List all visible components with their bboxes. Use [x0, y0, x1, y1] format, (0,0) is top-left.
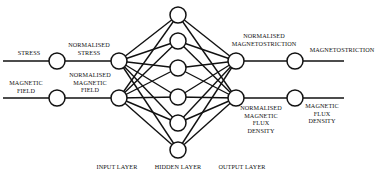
magnetic-flux-density-label: MAGNETIC FLUX DENSITY: [300, 102, 344, 125]
output-node: [228, 53, 244, 69]
magnetic-field-label: MAGNETIC FIELD: [6, 79, 46, 94]
hidden-node: [170, 33, 186, 49]
network-graph: [0, 0, 381, 180]
hidden-node: [170, 60, 186, 76]
normalised-magnetic-field-label: NORMALISED MAGNETIC FIELD: [64, 71, 116, 94]
neural-network-diagram: STRESS MAGNETIC FIELD NORMALISED STRESS …: [0, 0, 381, 180]
input-layer-label: INPUT LAYER: [88, 163, 146, 171]
stress-normaliser-node: [49, 53, 65, 69]
hidden-node: [170, 7, 186, 23]
stress-label: STRESS: [12, 49, 46, 57]
magnetostriction-label: MAGNETOSTRICTION: [306, 46, 378, 54]
output-layer-label: OUTPUT LAYER: [212, 163, 272, 171]
hidden-node: [170, 89, 186, 105]
hidden-node: [170, 115, 186, 131]
normalised-magnetic-flux-density-label: NORMALISED MAGNETIC FLUX DENSITY: [236, 104, 286, 134]
magnetostriction-denormaliser-node: [287, 53, 303, 69]
hidden-layer-label: HIDDEN LAYER: [150, 163, 206, 171]
normalised-magnetostriction-label: NORMALISED MAGNETOSTRICTION: [228, 32, 300, 47]
hidden-node: [170, 142, 186, 158]
field-normaliser-node: [49, 90, 65, 106]
normalised-stress-label: NORMALISED STRESS: [64, 41, 114, 56]
